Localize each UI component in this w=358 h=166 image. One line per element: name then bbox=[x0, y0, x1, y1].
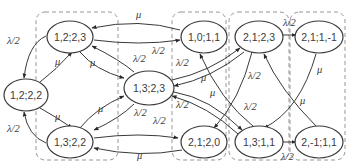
label-mu-4: μ bbox=[89, 57, 95, 68]
node-label: 1,3;2,3 bbox=[133, 82, 165, 94]
edge-1322-to-1222 bbox=[24, 112, 46, 143]
node-label: 1,3;2,2 bbox=[54, 136, 86, 148]
label-lambda-7: λ/2 bbox=[175, 57, 189, 68]
node-1222: 1,2;2,2 bbox=[4, 79, 48, 111]
label-lambda-8: λ/2 bbox=[175, 99, 189, 110]
label-lambda-9: λ/2 bbox=[247, 70, 261, 81]
edge-1223-to-1011 bbox=[94, 40, 180, 43]
label-mu-3: μ bbox=[135, 9, 141, 20]
state-transition-diagram: λ/2 μ λ/2 μ μ λ/2 μ λ/2 μ λ/2 λ/2 μ λ/2 … bbox=[0, 0, 358, 166]
node-label: 1,3;1,1 bbox=[243, 136, 275, 148]
node-211m1: 2,1;1,-1 bbox=[295, 21, 343, 53]
node-1311: 1,3;1,1 bbox=[235, 126, 283, 158]
label-lambda-12: λ/2 bbox=[280, 151, 294, 162]
node-1011: 1,0;1,1 bbox=[181, 21, 227, 53]
label-lambda-5: λ/2 bbox=[133, 107, 147, 118]
edge-1223-to-1222 bbox=[24, 36, 46, 78]
label-lambda-1: λ/2 bbox=[6, 35, 20, 46]
node-label: 2,1;2,0 bbox=[188, 136, 220, 148]
label-lambda-4: λ/2 bbox=[132, 53, 146, 64]
label-lambda-3: λ/2 bbox=[151, 45, 165, 56]
label-lambda-10: λ/2 bbox=[243, 101, 257, 112]
diagram-canvas: λ/2 μ λ/2 μ μ λ/2 μ λ/2 μ λ/2 λ/2 μ λ/2 … bbox=[0, 0, 358, 166]
node-1223: 1,2;2,3 bbox=[47, 21, 93, 53]
label-mu-10: μ bbox=[299, 95, 305, 106]
label-mu-9: μ bbox=[316, 64, 322, 75]
label-lambda-11: λ/2 bbox=[282, 17, 296, 28]
label-lambda-6: λ/2 bbox=[152, 115, 166, 126]
label-mu-2: μ bbox=[54, 111, 60, 122]
node-1323: 1,3;2,3 bbox=[124, 71, 174, 105]
label-mu-1: μ bbox=[54, 56, 60, 67]
node-1322: 1,3;2,2 bbox=[47, 126, 93, 158]
label-mu-5: μ bbox=[97, 103, 103, 114]
node-label: 1,2;2,3 bbox=[54, 31, 86, 43]
label-mu-6: μ bbox=[136, 150, 142, 161]
edge-1323-to-1223 bbox=[92, 46, 134, 72]
node-label: 1,0;1,1 bbox=[188, 31, 220, 43]
node-2120: 2,1;2,0 bbox=[181, 126, 227, 158]
node-label: 1,2;2,2 bbox=[10, 89, 42, 101]
node-2123: 2,1;2,3 bbox=[235, 21, 283, 53]
edge-1223-to-1323 bbox=[80, 52, 124, 78]
node-label: 2,1;2,3 bbox=[243, 31, 275, 43]
label-mu-8: μ bbox=[209, 87, 215, 98]
edge-1322-to-2120 bbox=[94, 135, 178, 138]
node-2m111: 2,-1;1,1 bbox=[295, 126, 343, 158]
label-lambda-2: λ/2 bbox=[6, 123, 20, 134]
label-mu-7: μ bbox=[200, 72, 206, 83]
node-label: 2,-1;1,1 bbox=[301, 136, 337, 148]
edge-1011-to-1223 bbox=[92, 23, 180, 30]
node-label: 2,1;1,-1 bbox=[301, 31, 337, 43]
